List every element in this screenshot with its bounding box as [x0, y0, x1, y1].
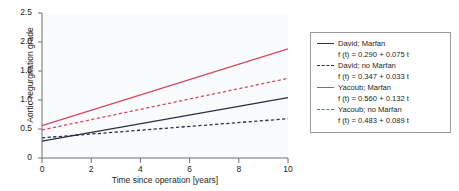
chart-figure: 2.5 2.0 1.5 1.0 0.5 0 0 2 4 6 8 10 Aorti…: [0, 0, 459, 191]
x-tick-marks: [42, 158, 288, 163]
x-tick-label: 6: [178, 165, 202, 174]
legend-item-equation: f (t) = 0.560 + 0.132 t: [311, 93, 450, 104]
series-lines: [42, 49, 288, 141]
legend-item-label: David; no Marfan: [338, 61, 396, 70]
legend-item-equation: f (t) = 0.290 + 0.075 t: [311, 49, 450, 60]
legend-item-yacoub-no-marfan: Yacoub; no Marfan: [311, 104, 450, 115]
y-tick-label: 0: [2, 153, 32, 162]
series-line-2: [42, 49, 288, 126]
legend-item-equation: f (t) = 0.483 + 0.089 t: [311, 115, 450, 126]
y-axis-title: Aortic regurgitation grade: [25, 10, 35, 140]
x-tick-label: 8: [227, 165, 251, 174]
x-tick-label: 2: [79, 165, 103, 174]
legend-item-label: Yacoub; Marfan: [338, 83, 391, 92]
x-axis-title: Time since operation [years]: [42, 175, 288, 185]
x-tick-label: 4: [128, 165, 152, 174]
x-tick-label: 0: [30, 165, 54, 174]
legend-item-label: Yacoub; no Marfan: [338, 105, 402, 114]
legend-box: David; Marfan f (t) = 0.290 + 0.075 t Da…: [310, 32, 451, 133]
legend-item-david-marfan: David; Marfan: [311, 38, 450, 49]
legend-item-yacoub-marfan: Yacoub; Marfan: [311, 82, 450, 93]
legend-item-david-no-marfan: David; no Marfan: [311, 60, 450, 71]
legend-item-equation: f (t) = 0.347 + 0.033 t: [311, 71, 450, 82]
x-tick-label: 10: [276, 165, 300, 174]
legend-item-label: David; Marfan: [338, 39, 385, 48]
y-tick-marks: [38, 13, 42, 158]
y-axis-title-wrap: Aortic regurgitation grade: [8, 20, 22, 150]
